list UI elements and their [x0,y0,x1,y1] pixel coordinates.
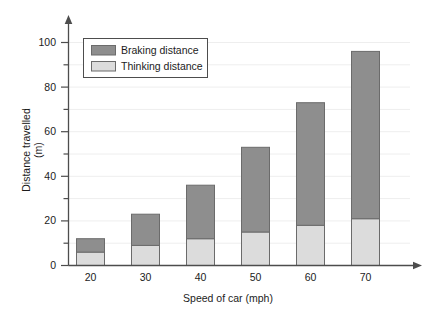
bar-thinking-20 [77,252,105,265]
x-axis-arrowhead [413,262,422,270]
x-tick-label-40: 40 [195,271,207,283]
legend-label-braking: Braking distance [121,44,199,56]
bar-braking-60 [297,103,325,226]
bar-thinking-30 [132,245,160,265]
stopping-distance-chart: 0 20 40 60 80 100 20 30 40 50 60 70 Spee… [0,0,432,313]
y-tick-label-20: 20 [44,214,56,226]
x-tick-label-60: 60 [305,271,317,283]
bar-thinking-70 [352,219,380,266]
legend-label-thinking: Thinking distance [121,60,203,72]
y-tick-label-60: 60 [44,125,56,137]
bar-thinking-50 [242,232,270,266]
y-axis-ticks [61,43,69,266]
y-axis-title-line2: (m) [32,142,44,158]
y-axis-arrowhead [65,15,73,24]
y-axis-title: Distance travelled (m) [20,108,44,192]
bar-braking-70 [352,51,380,218]
bar-braking-20 [77,239,105,252]
x-tick-label-30: 30 [140,271,152,283]
bar-braking-40 [187,185,215,239]
chart-legend: Braking distance Thinking distance [84,39,208,78]
y-axis-title-line1: Distance travelled [20,108,32,192]
y-tick-label-40: 40 [44,170,56,182]
bar-thinking-40 [187,239,215,266]
bar-braking-30 [132,214,160,245]
x-axis-title: Speed of car (mph) [183,292,273,304]
x-tick-label-20: 20 [85,271,97,283]
y-tick-label-80: 80 [44,81,56,93]
x-axis-tick-labels: 20 30 40 50 60 70 [85,271,372,283]
chart-canvas: 0 20 40 60 80 100 20 30 40 50 60 70 Spee… [0,0,432,313]
y-tick-label-0: 0 [50,259,56,271]
bars-group [77,51,380,265]
y-tick-label-100: 100 [38,36,56,48]
legend-swatch-thinking [92,62,116,72]
legend-swatch-braking [92,46,116,56]
bar-thinking-60 [297,225,325,265]
x-tick-label-50: 50 [250,271,262,283]
bar-braking-50 [242,147,270,232]
x-tick-label-70: 70 [360,271,372,283]
